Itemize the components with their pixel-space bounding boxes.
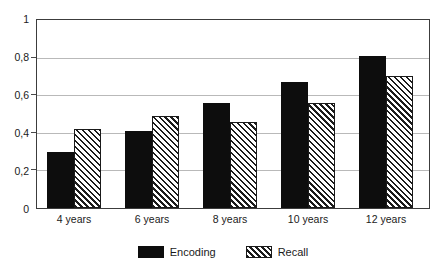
bar-encoding-6-years — [125, 131, 152, 208]
legend-item-encoding: Encoding — [138, 246, 216, 258]
legend-swatch-recall-icon — [246, 246, 272, 258]
x-axis-label-12-years: 12 years — [349, 214, 423, 225]
bar-encoding-8-years — [203, 103, 230, 208]
y-axis-label-0: 0 — [0, 204, 29, 215]
legend-swatch-encoding-icon — [138, 246, 164, 258]
bar-chart: 1 0,8 0,6 0,4 0,2 0 4 years 6 years 8 ye… — [0, 0, 446, 275]
bar-encoding-4-years — [47, 152, 74, 208]
legend-item-recall: Recall — [246, 246, 309, 258]
y-axis-label-0p2: 0,2 — [0, 166, 29, 177]
y-axis-label-0p8: 0,8 — [0, 52, 29, 63]
bar-recall-12-years — [386, 76, 413, 208]
x-axis-label-4-years: 4 years — [37, 214, 111, 225]
bar-recall-10-years — [308, 103, 335, 208]
bar-recall-4-years — [74, 129, 101, 208]
bar-recall-6-years — [152, 116, 179, 208]
legend-label-encoding: Encoding — [170, 247, 216, 258]
x-axis-label-10-years: 10 years — [271, 214, 345, 225]
x-axis-label-6-years: 6 years — [115, 214, 189, 225]
bar-encoding-10-years — [281, 82, 308, 208]
legend-label-recall: Recall — [278, 247, 309, 258]
chart-legend: Encoding Recall — [0, 246, 446, 258]
y-axis-label-0p6: 0,6 — [0, 90, 29, 101]
bar-recall-8-years — [230, 122, 257, 208]
y-axis-label-1: 1 — [0, 14, 29, 25]
x-axis-label-8-years: 8 years — [193, 214, 267, 225]
y-axis-label-0p4: 0,4 — [0, 128, 29, 139]
bar-encoding-12-years — [359, 56, 386, 208]
plot-area — [36, 19, 430, 209]
